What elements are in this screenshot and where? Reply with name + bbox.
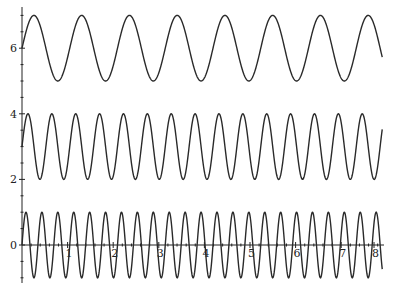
y-tick-label: 4 — [10, 108, 17, 121]
y-tick-label: 0 — [10, 239, 17, 252]
sine-waves-chart: 12345678 0246 — [0, 0, 397, 291]
curve-series-2 — [22, 114, 382, 180]
y-tick-label: 2 — [10, 173, 17, 186]
plot-curves — [22, 15, 382, 277]
y-tick-label: 6 — [10, 42, 17, 55]
x-tick-label: 6 — [294, 247, 301, 260]
curve-series-1 — [22, 15, 382, 81]
x-tick-label: 8 — [372, 247, 379, 260]
